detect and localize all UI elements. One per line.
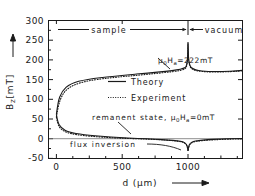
plot-frame: [49, 21, 243, 159]
x-tick-label-0: 0: [53, 162, 59, 172]
y-tick-label-200: 200: [26, 55, 44, 65]
x-axis-arrow: [172, 180, 209, 185]
y-axis-arrow: [10, 34, 15, 57]
legend-label-experiment: Experiment: [131, 94, 186, 103]
plot-svg: 300 250 200 150 100 50 0 -50 0 500 1000 …: [0, 0, 255, 196]
vacuum-region-label: vacuum: [205, 26, 244, 35]
y-tick-label-150: 150: [26, 75, 44, 85]
remanent-state-label: remanent state, µ0Ha=0mT: [92, 113, 215, 123]
figure-container: 300 250 200 150 100 50 0 -50 0 500 1000 …: [0, 0, 255, 196]
y-tick-label-100: 100: [26, 94, 44, 104]
y-tick-label-250: 250: [26, 35, 44, 45]
sample-region-label: sample: [91, 26, 127, 35]
y-tick-label-50: 50: [32, 114, 44, 124]
svg-text:BZ[mT]: BZ[mT]: [5, 74, 16, 110]
y-tick-label-0: 0: [38, 134, 44, 144]
y-tick-label-300: 300: [26, 16, 44, 26]
x-axis-title: d (µm): [123, 178, 158, 188]
legend-label-theory: Theory: [130, 78, 164, 87]
y-axis-title: BZ[mT]: [5, 74, 16, 110]
x-tick-label-500: 500: [113, 162, 131, 172]
x-tick-label-1000: 1000: [176, 162, 201, 172]
flux-inversion-label: flux inversion: [70, 140, 136, 149]
y-tick-label-minus50: -50: [28, 153, 44, 163]
svg-text:d (µm): d (µm): [123, 178, 158, 188]
